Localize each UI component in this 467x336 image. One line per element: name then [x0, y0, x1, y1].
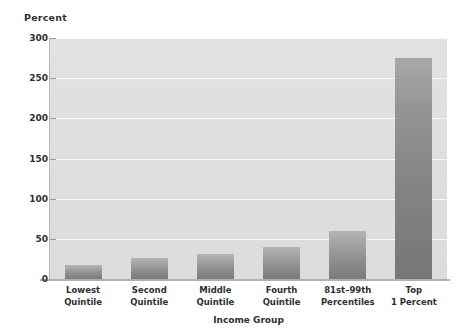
x-axis-line [40, 279, 450, 281]
y-axis-tick-label: 300 [4, 33, 48, 43]
y-axis-tickmark [50, 78, 56, 79]
x-axis-tick-labels: LowestQuintileSecondQuintileMiddleQuinti… [50, 285, 447, 315]
x-axis-tick-label: FourthQuintile [249, 285, 315, 308]
x-axis-tick-label: MiddleQuintile [182, 285, 248, 308]
bars-layer [50, 38, 447, 279]
x-axis-tick-label-line: 1 Percent [381, 297, 447, 309]
y-axis-tick-label: 250 [4, 73, 48, 83]
x-axis-tick-label-line: Fourth [249, 285, 315, 297]
y-axis-tick-label: 50 [4, 234, 48, 244]
bar [65, 265, 102, 279]
x-axis-tick-label-line: Lowest [50, 285, 116, 297]
x-axis-tick-label-line: Second [116, 285, 182, 297]
bar [329, 231, 366, 279]
y-axis-tickmark [50, 118, 56, 119]
x-axis-tick-label-line: Middle [182, 285, 248, 297]
x-axis-tick-label-line: Percentiles [315, 297, 381, 309]
x-axis-tick-label-line: Top [381, 285, 447, 297]
x-axis-tick-label-line: Quintile [182, 297, 248, 309]
y-axis-tickmark [50, 199, 56, 200]
y-axis-tick-label: 0 [4, 274, 48, 284]
y-axis-tickmark [50, 239, 56, 240]
bar-chart-figure: Percent 050100150200250300 LowestQuintil… [0, 0, 467, 336]
x-axis-title: Income Group [50, 315, 447, 325]
x-axis-tick-label: SecondQuintile [116, 285, 182, 308]
x-axis-tick-label-line: 81st–99th [315, 285, 381, 297]
x-axis-tick-label-line: Quintile [50, 297, 116, 309]
bar [263, 247, 300, 279]
y-axis-tick-label: 100 [4, 194, 48, 204]
x-axis-tick-label: LowestQuintile [50, 285, 116, 308]
bar [395, 58, 432, 279]
plot-area [50, 38, 447, 279]
bar [131, 258, 168, 279]
x-axis-tick-label: 81st–99thPercentiles [315, 285, 381, 308]
x-axis-tick-label: Top1 Percent [381, 285, 447, 308]
x-axis-tick-label-line: Quintile [249, 297, 315, 309]
y-axis-tick-label: 200 [4, 113, 48, 123]
y-axis-tickmark [50, 159, 56, 160]
y-axis-ticks: 050100150200250300 [0, 0, 48, 336]
y-axis-tickmark [50, 38, 56, 39]
y-axis-tick-label: 150 [4, 154, 48, 164]
x-axis-tick-label-line: Quintile [116, 297, 182, 309]
bar [197, 254, 234, 279]
